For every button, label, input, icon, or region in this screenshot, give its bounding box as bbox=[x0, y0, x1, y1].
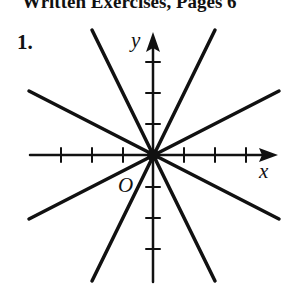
y-axis-label: y bbox=[129, 28, 141, 52]
origin-point bbox=[147, 149, 159, 161]
origin-label: O bbox=[118, 173, 133, 197]
coordinate-graph: x y O bbox=[0, 0, 295, 287]
x-axis-label: x bbox=[258, 159, 269, 183]
